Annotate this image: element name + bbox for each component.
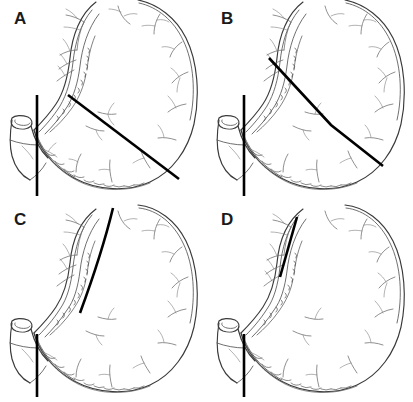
gastric-wall-vessels: [76, 211, 188, 387]
gastric-resection-line-a: [68, 95, 179, 179]
left-gastric-vessels: [57, 214, 84, 286]
gastric-wall-vessels: [283, 6, 395, 182]
duodenal-stump: [10, 116, 57, 180]
left-gastric-vessels: [264, 9, 291, 81]
duodenal-stump: [217, 116, 264, 180]
gastric-wall-vessels: [283, 211, 395, 387]
panel-a: A: [0, 0, 206, 201]
duodenal-stump: [10, 319, 57, 383]
stomach-body-outline: [34, 0, 197, 189]
lesser-curvature-arcade: [39, 215, 99, 337]
resection-lines: [37, 95, 179, 196]
stomach-illustration-b: [207, 0, 413, 201]
stomach-body-outline: [34, 205, 197, 392]
greater-curvature-omentum: [36, 339, 150, 393]
stomach-body-outline: [241, 0, 404, 189]
stomach-illustration-c: [0, 201, 206, 402]
gastric-resection-figure: A: [0, 0, 413, 402]
duodenal-stump: [217, 319, 264, 383]
stomach-illustration-d: [207, 201, 413, 402]
greater-curvature-omentum: [243, 339, 357, 393]
resection-lines: [244, 58, 383, 196]
lesser-curvature-arcade: [246, 215, 306, 337]
resection-lines: [37, 208, 113, 397]
gastric-wall-vessels: [69, 6, 188, 182]
panel-c: C: [0, 201, 206, 402]
stomach-illustration-a: [0, 0, 206, 201]
resection-lines: [244, 217, 297, 397]
panel-d: D: [207, 201, 413, 402]
gastric-resection-line-c: [80, 208, 113, 313]
left-gastric-vessels: [57, 9, 84, 81]
panel-b: B: [207, 0, 413, 201]
stomach-body-outline: [241, 205, 404, 392]
